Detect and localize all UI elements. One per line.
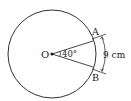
label-angle: 40° <box>62 49 77 59</box>
label-b: B <box>92 72 99 83</box>
label-arc-length: 9 cm <box>103 50 126 60</box>
label-a: A <box>91 26 99 37</box>
center-point <box>50 52 53 55</box>
circle-diagram: O 40° A B 9 cm <box>0 0 131 101</box>
label-o: O <box>41 49 49 60</box>
